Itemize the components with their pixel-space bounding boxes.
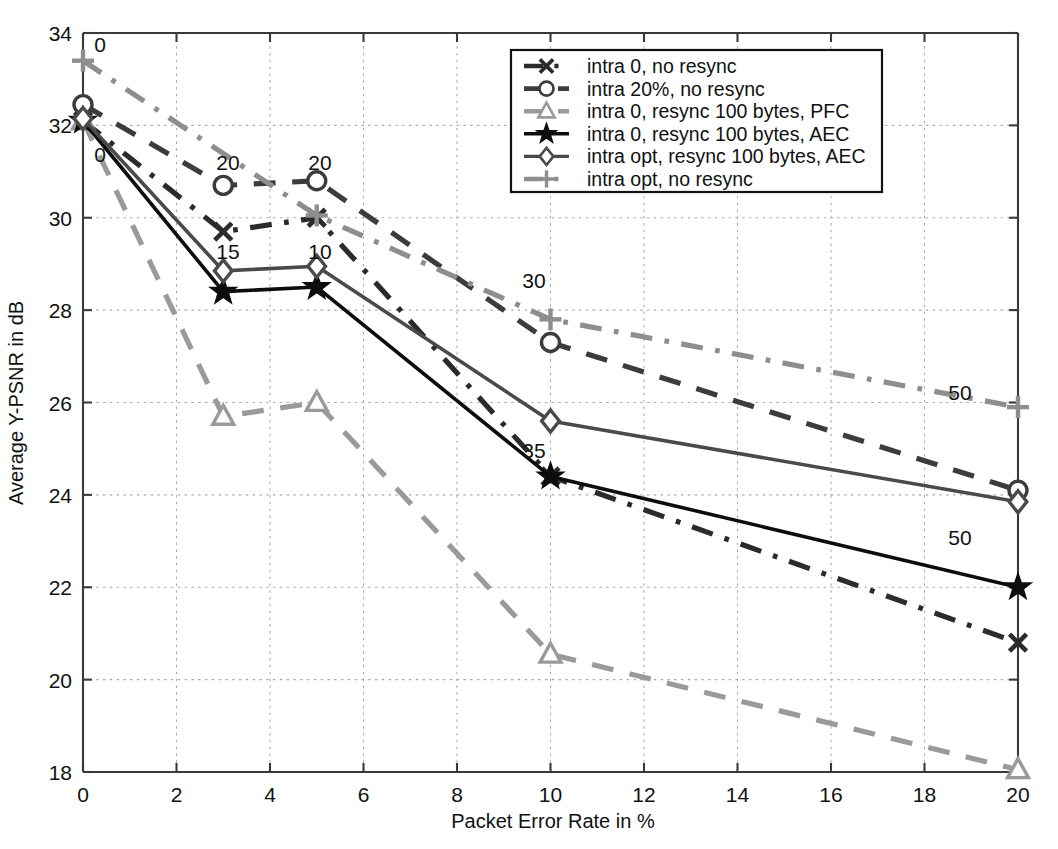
- data-point-marker-plus: [1007, 396, 1029, 418]
- x-tick-label: 20: [1006, 783, 1029, 806]
- x-axis-title: Packet Error Rate in %: [451, 810, 655, 832]
- y-tick-label: 34: [49, 22, 73, 45]
- data-point-marker-circle: [542, 333, 560, 351]
- x-tick-label: 16: [819, 783, 842, 806]
- data-point-marker-circle: [539, 82, 553, 96]
- x-tick-label: 14: [726, 783, 750, 806]
- point-annotation: 0: [94, 143, 106, 166]
- x-tick-label: 0: [77, 783, 89, 806]
- x-tick-label: 8: [451, 783, 463, 806]
- data-point-marker-x: [215, 223, 232, 240]
- data-point-marker-triangle: [306, 392, 327, 411]
- y-tick-label: 22: [49, 576, 72, 599]
- x-tick-label: 4: [264, 783, 276, 806]
- y-tick-label: 32: [49, 114, 72, 137]
- y-tick-label: 18: [49, 761, 72, 784]
- point-annotation: 50: [948, 526, 971, 549]
- legend-label: intra 0, no resync: [587, 55, 737, 77]
- x-tick-label: 12: [632, 783, 655, 806]
- x-tick-label: 18: [913, 783, 936, 806]
- data-point-marker-triangle: [540, 643, 561, 662]
- point-annotation: 50: [948, 381, 971, 404]
- data-point-marker-circle: [214, 176, 232, 194]
- point-annotation: 35: [522, 439, 545, 462]
- data-point-marker-triangle: [213, 405, 234, 424]
- x-tick-label: 6: [358, 783, 370, 806]
- point-annotation: 20: [216, 151, 239, 174]
- legend-label: intra 20%, no resync: [587, 78, 765, 100]
- point-annotation: 30: [522, 269, 545, 292]
- legend-label: intra opt, no resync: [587, 168, 753, 190]
- data-point-marker-circle: [308, 172, 326, 190]
- data-point-marker-plus: [540, 308, 562, 330]
- y-tick-label: 28: [49, 299, 72, 322]
- y-tick-label: 24: [49, 484, 73, 507]
- y-tick-label: 30: [49, 207, 72, 230]
- x-tick-label: 10: [539, 783, 562, 806]
- chart-figure: 02468101214161820182022242628303234 0020…: [0, 0, 1058, 849]
- y-tick-label: 26: [49, 392, 72, 415]
- y-tick-label: 20: [49, 669, 72, 692]
- y-axis-title: Average Y-PSNR in dB: [5, 301, 27, 505]
- legend[interactable]: intra 0, no resyncintra 20%, no resyncin…: [511, 50, 882, 192]
- data-point-marker-diamond: [542, 410, 560, 432]
- legend-label: intra opt, resync 100 bytes, AEC: [587, 145, 866, 167]
- legend-label: intra 0, resync 100 bytes, PFC: [587, 100, 849, 122]
- point-annotation: 15: [216, 240, 239, 263]
- legend-label: intra 0, resync 100 bytes, AEC: [587, 123, 849, 145]
- x-tick-label: 2: [171, 783, 183, 806]
- point-annotation: 0: [94, 33, 106, 56]
- point-annotation: 10: [308, 240, 331, 263]
- point-annotation: 20: [308, 151, 331, 174]
- psnr-line-chart: 02468101214161820182022242628303234 0020…: [0, 0, 1058, 849]
